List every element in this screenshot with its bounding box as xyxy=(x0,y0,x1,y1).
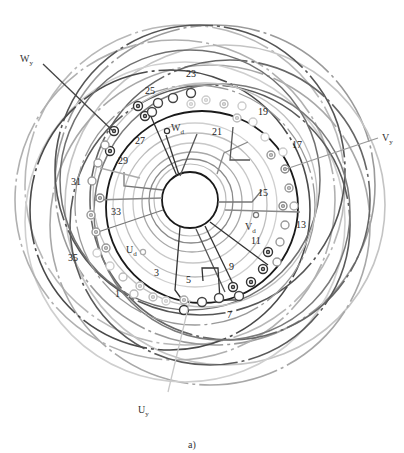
slot-label: 33 xyxy=(111,206,121,217)
slot-label: 3 xyxy=(154,267,159,278)
figure-caption: a) xyxy=(188,439,196,451)
slot-label: 23 xyxy=(186,68,196,79)
hub-circle xyxy=(162,172,218,228)
terminal-label-uy: Uy xyxy=(138,404,149,418)
slot-label: 11 xyxy=(251,235,261,246)
slot-label: 13 xyxy=(296,219,306,230)
slot-label: 27 xyxy=(135,135,145,146)
slot-label: 29 xyxy=(118,155,128,166)
slot-label: 7 xyxy=(227,309,232,320)
slot-label: 15 xyxy=(258,187,268,198)
slot-label: 21 xyxy=(212,126,222,137)
slot-label: 17 xyxy=(292,139,302,150)
winding-diagram: Wy Vy Uy Wd Vd Ud 1357911131517192123252… xyxy=(0,0,404,453)
slot-label: 9 xyxy=(229,261,234,272)
slot-label: 1 xyxy=(115,288,120,299)
slot-label: 19 xyxy=(258,106,268,117)
terminal-label-wy: Wy xyxy=(20,53,33,67)
terminal-label-vy: Vy xyxy=(382,132,393,146)
slot-label: 5 xyxy=(186,274,191,285)
terminal-label-vd: Vd xyxy=(245,221,256,235)
slot-label: 35 xyxy=(68,252,78,263)
slot-label: 31 xyxy=(71,176,81,187)
slot-label: 25 xyxy=(145,85,155,96)
